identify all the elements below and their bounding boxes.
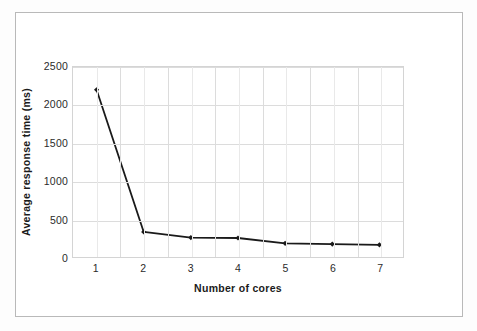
gridline-vertical: [310, 67, 311, 257]
y-axis-tick-labels: 05001000150020002500: [18, 66, 68, 258]
x-axis-tick-label: 7: [365, 262, 395, 274]
x-axis-title: Number of cores: [72, 282, 404, 294]
y-axis-tick-label: 500: [24, 214, 68, 226]
gridline-vertical: [358, 67, 359, 257]
figure-root: Average response time (ms) 0500100015002…: [0, 0, 477, 331]
gridline-vertical-minor: [334, 67, 335, 257]
gridline-horizontal: [73, 144, 403, 145]
line-chart: Average response time (ms) 0500100015002…: [0, 0, 477, 331]
gridline-horizontal: [73, 105, 403, 106]
gridline-vertical-minor: [144, 67, 145, 257]
x-axis-tick-label: 4: [223, 262, 253, 274]
gridline-vertical: [168, 67, 169, 257]
gridline-horizontal: [73, 221, 403, 222]
gridline-horizontal: [73, 182, 403, 183]
plot-area: [72, 66, 404, 258]
x-axis-tick-label: 5: [270, 262, 300, 274]
gridline-horizontal: [73, 67, 403, 68]
x-axis-tick-labels: 1234567: [72, 262, 404, 280]
series-line-path: [73, 67, 403, 257]
x-axis-tick-label: 6: [318, 262, 348, 274]
x-axis-tick-label: 3: [176, 262, 206, 274]
gridline-vertical: [120, 67, 121, 257]
y-axis-tick-label: 2500: [24, 60, 68, 72]
y-axis-tick-label: 1500: [24, 137, 68, 149]
gridline-vertical-minor: [381, 67, 382, 257]
gridline-vertical-minor: [97, 67, 98, 257]
x-axis-tick-label: 2: [128, 262, 158, 274]
gridline-vertical-minor: [286, 67, 287, 257]
y-axis-tick-label: 1000: [24, 175, 68, 187]
gridline-vertical: [215, 67, 216, 257]
gridline-vertical-minor: [239, 67, 240, 257]
gridline-vertical-minor: [192, 67, 193, 257]
x-axis-tick-label: 1: [81, 262, 111, 274]
y-axis-tick-label: 0: [24, 252, 68, 264]
y-axis-tick-label: 2000: [24, 98, 68, 110]
gridline-vertical: [263, 67, 264, 257]
